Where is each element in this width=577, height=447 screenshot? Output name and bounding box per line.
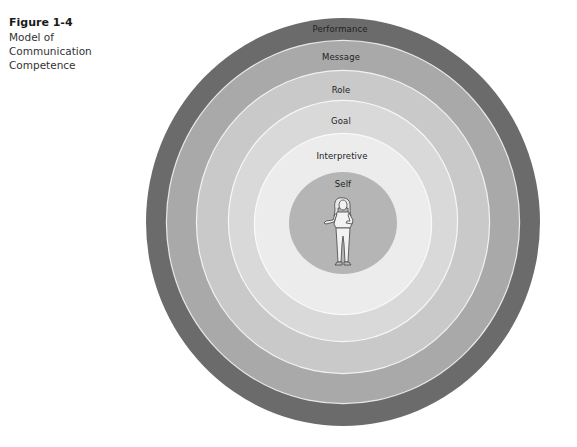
communication-competence-diagram: Performance Message Role Goal Interpreti…: [0, 0, 577, 447]
person-icon: [322, 196, 364, 268]
label-self: Self: [335, 179, 351, 189]
label-performance: Performance: [313, 24, 368, 34]
label-interpretive: Interpretive: [316, 151, 367, 161]
label-message: Message: [322, 52, 360, 62]
label-goal: Goal: [331, 116, 351, 126]
label-role: Role: [332, 85, 351, 95]
